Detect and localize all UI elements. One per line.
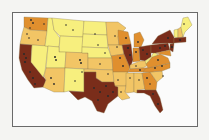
state-AZ — [43, 68, 65, 92]
state-NY — [152, 30, 174, 44]
state-AR — [113, 72, 128, 86]
state-FL — [137, 90, 163, 113]
state-NM — [64, 68, 84, 92]
us-choropleth-map — [0, 0, 209, 140]
state-ME — [181, 17, 192, 37]
state-WY — [59, 36, 83, 53]
state-ND — [83, 21, 107, 35]
state-MI — [134, 32, 144, 47]
state-VT — [174, 29, 178, 38]
state-MS — [125, 73, 134, 93]
state-IN — [133, 48, 140, 62]
state-WI — [118, 30, 131, 45]
state-SD — [82, 34, 108, 48]
state-CO — [65, 52, 88, 69]
